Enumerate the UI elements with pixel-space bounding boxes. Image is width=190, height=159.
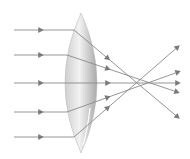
diagram-canvas	[0, 0, 190, 159]
incident-arrow-icon	[38, 52, 44, 58]
refracted-arrow-icon	[105, 80, 111, 86]
lens-diagram	[0, 0, 190, 159]
incident-arrow-icon	[38, 134, 44, 140]
ray-4	[14, 70, 181, 115]
light-rays	[14, 27, 181, 140]
ray-end-arrow-icon	[175, 80, 181, 86]
incident-arrow-icon	[38, 109, 44, 115]
incident-arrow-icon	[38, 80, 44, 86]
incident-arrow-icon	[38, 27, 44, 33]
